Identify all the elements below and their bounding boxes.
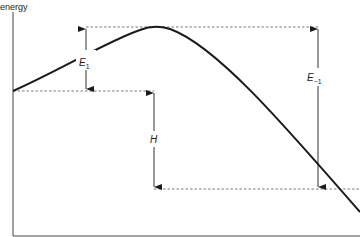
energy-profile-diagram: energy E1 H E−1 xyxy=(0,0,360,237)
y-axis-label: energy xyxy=(0,2,28,12)
h-label: H xyxy=(150,134,158,145)
reaction-energy-curve xyxy=(13,27,360,212)
